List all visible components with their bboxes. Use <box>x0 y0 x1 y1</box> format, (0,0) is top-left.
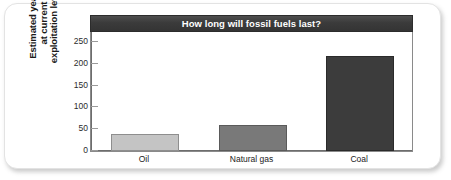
chart-title-bar: How long will fossil fuels last? <box>90 15 413 32</box>
bar-natural-gas <box>219 125 287 151</box>
y-axis-title-line-3: exploitation levels <box>49 0 60 63</box>
y-axis-tick-label: 200 <box>74 58 88 68</box>
y-axis-line <box>91 32 92 151</box>
x-axis-label-coal: Coal <box>350 154 367 164</box>
x-axis-label-natural-gas: Natural gas <box>230 154 273 164</box>
y-axis-tick-label: 100 <box>74 101 88 111</box>
x-axis-label-oil: Oil <box>139 154 149 164</box>
bar-oil <box>111 134 179 151</box>
bar-chart: How long will fossil fuels last? 0501001… <box>90 15 413 152</box>
y-axis-tick: 100 <box>91 106 98 107</box>
y-axis-tick-label: 0 <box>83 145 88 155</box>
chart-title: How long will fossil fuels last? <box>182 18 321 29</box>
x-axis-category-labels: OilNatural gasCoal <box>90 154 413 168</box>
y-axis-tick: 250 <box>91 41 98 42</box>
y-axis-tick: 150 <box>91 85 98 86</box>
y-axis-tick-label: 250 <box>74 36 88 46</box>
y-axis-tick: 0 <box>91 150 98 151</box>
bar-coal <box>326 56 394 151</box>
y-axis-tick: 200 <box>91 63 98 64</box>
y-axis-tick-label: 50 <box>79 123 88 133</box>
y-axis-tick: 50 <box>91 128 98 129</box>
plot-area: 050100150200250 <box>90 32 413 152</box>
plot-inner: 050100150200250 <box>91 32 412 151</box>
chart-card: Estimated years at current exploitation … <box>4 3 441 169</box>
y-axis-title: Estimated years at current exploitation … <box>19 0 69 82</box>
y-axis-tick-label: 150 <box>74 80 88 90</box>
